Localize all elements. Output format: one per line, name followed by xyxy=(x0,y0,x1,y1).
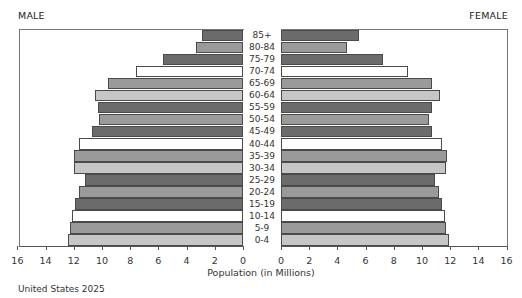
female-bar xyxy=(281,30,359,42)
female-x-tick-label: 12 xyxy=(440,255,460,266)
age-group-label: 30-34 xyxy=(243,162,281,174)
male-bar xyxy=(108,78,243,90)
female-bar xyxy=(281,234,449,246)
male-x-tick-label: 0 xyxy=(233,255,253,266)
male-x-tick-label: 2 xyxy=(205,255,225,266)
male-bar xyxy=(92,126,243,138)
female-x-tick-label: 10 xyxy=(412,255,432,266)
male-bar xyxy=(163,54,243,66)
male-x-tick xyxy=(215,246,216,250)
age-group-label: 60-64 xyxy=(243,89,281,101)
female-x-tick-label: 6 xyxy=(356,255,376,266)
male-bar xyxy=(85,174,243,186)
male-bar xyxy=(79,186,243,198)
female-bar xyxy=(281,126,432,138)
male-x-tick xyxy=(74,246,75,250)
female-x-tick xyxy=(281,246,282,250)
female-bar xyxy=(281,186,439,198)
male-x-tick xyxy=(46,246,47,250)
female-x-tick xyxy=(478,246,479,250)
male-x-tick-label: 6 xyxy=(148,255,168,266)
female-x-tick-label: 4 xyxy=(327,255,347,266)
age-group-label: 50-54 xyxy=(243,113,281,125)
male-bar xyxy=(74,150,243,162)
male-x-tick xyxy=(158,246,159,250)
male-bar xyxy=(79,138,243,150)
female-bar xyxy=(281,78,432,90)
female-label: FEMALE xyxy=(469,10,508,21)
male-bar xyxy=(202,30,243,42)
female-x-tick xyxy=(394,246,395,250)
age-group-label: 85+ xyxy=(243,29,281,41)
female-x-tick xyxy=(450,246,451,250)
age-group-label: 35-39 xyxy=(243,150,281,162)
male-bar xyxy=(98,102,243,114)
male-x-tick-label: 14 xyxy=(36,255,56,266)
age-group-label: 20-24 xyxy=(243,186,281,198)
female-bar xyxy=(281,102,432,114)
male-bar xyxy=(74,162,243,174)
male-bar xyxy=(196,42,243,54)
female-bar xyxy=(281,42,347,54)
male-x-tick xyxy=(187,246,188,250)
male-x-tick xyxy=(130,246,131,250)
male-x-tick-label: 10 xyxy=(92,255,112,266)
chart-footer: United States 2025 xyxy=(18,284,105,294)
female-x-tick xyxy=(366,246,367,250)
male-bar xyxy=(70,222,243,234)
female-bar xyxy=(281,66,408,78)
age-group-label: 75-79 xyxy=(243,53,281,65)
male-bar xyxy=(99,114,243,126)
female-bar xyxy=(281,138,442,150)
male-bar xyxy=(75,198,243,210)
male-bar xyxy=(136,66,243,78)
male-x-tick-label: 8 xyxy=(120,255,140,266)
female-x-tick xyxy=(422,246,423,250)
age-group-label: 40-44 xyxy=(243,138,281,150)
age-group-label: 80-84 xyxy=(243,41,281,53)
female-x-tick-label: 16 xyxy=(497,255,517,266)
male-x-tick-label: 16 xyxy=(7,255,27,266)
female-x-tick-label: 2 xyxy=(299,255,319,266)
age-group-label: 5-9 xyxy=(243,222,281,234)
female-x-tick xyxy=(337,246,338,250)
female-x-tick xyxy=(309,246,310,250)
age-group-label: 0-4 xyxy=(243,234,281,246)
male-x-tick xyxy=(102,246,103,250)
male-x-tick-label: 4 xyxy=(177,255,197,266)
male-bar xyxy=(72,210,243,222)
male-x-tick-label: 12 xyxy=(64,255,84,266)
age-group-label: 70-74 xyxy=(243,65,281,77)
female-x-tick xyxy=(507,246,508,250)
female-bar xyxy=(281,54,383,66)
male-x-tick xyxy=(17,246,18,250)
age-group-label: 25-29 xyxy=(243,174,281,186)
female-bar xyxy=(281,150,447,162)
female-bar xyxy=(281,162,446,174)
age-group-label: 45-49 xyxy=(243,125,281,137)
female-x-tick-label: 8 xyxy=(384,255,404,266)
female-x-tick-label: 0 xyxy=(271,255,291,266)
female-bar xyxy=(281,90,440,102)
female-bar xyxy=(281,198,442,210)
male-x-tick xyxy=(243,246,244,250)
female-x-tick-label: 14 xyxy=(468,255,488,266)
male-bar xyxy=(95,90,243,102)
male-bar xyxy=(68,234,243,246)
age-group-label: 10-14 xyxy=(243,210,281,222)
male-x-axis-line xyxy=(19,246,244,247)
age-group-label: 15-19 xyxy=(243,198,281,210)
female-bar xyxy=(281,114,429,126)
female-bar xyxy=(281,210,445,222)
x-axis-title: Population (in Millions) xyxy=(0,267,522,278)
age-group-label: 65-69 xyxy=(243,77,281,89)
male-label: MALE xyxy=(18,10,45,21)
female-bar xyxy=(281,174,435,186)
female-bar xyxy=(281,222,446,234)
age-group-label: 55-59 xyxy=(243,101,281,113)
